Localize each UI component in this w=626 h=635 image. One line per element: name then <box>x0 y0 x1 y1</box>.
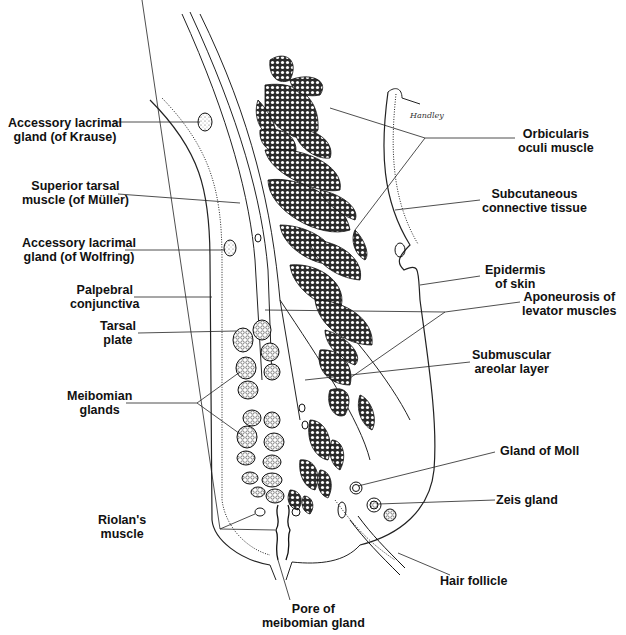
label-superior-tarsal-muscle: Superior tarsalmuscle (of Müller) <box>22 179 129 207</box>
label-epidermis: Epidermisof skin <box>485 263 545 291</box>
label-pore-of-meibomian-gland: Pore ofmeibomian gland <box>262 602 365 630</box>
label-zeis-gland: Zeis gland <box>496 493 558 507</box>
label-meibomian-glands: Meibomianglands <box>67 389 132 417</box>
label-palpebral-conjunctiva: Palpebralconjunctiva <box>70 283 139 311</box>
label-orbicularis-oculi: Orbicularisoculi muscle <box>518 127 594 155</box>
label-riolans-muscle: Riolan'smuscle <box>98 513 146 541</box>
label-hair-follicle: Hair follicle <box>440 574 507 588</box>
label-subcutaneous-tissue: Subcutaneousconnective tissue <box>482 187 587 215</box>
label-aponeurosis: Aponeurosis oflevator muscles <box>522 290 617 318</box>
label-submuscular-areolar: Submuscularareolar layer <box>472 348 551 376</box>
label-accessory-lacrimal-krause: Accessory lacrimalgland (of Krause) <box>8 116 122 144</box>
label-accessory-lacrimal-wolfring: Accessory lacrimalgland (of Wolfring) <box>22 236 136 264</box>
label-gland-of-moll: Gland of Moll <box>500 444 579 458</box>
signature: Handley <box>409 111 444 120</box>
label-tarsal-plate: Tarsalplate <box>100 319 136 347</box>
meibomian-glands <box>233 320 284 503</box>
